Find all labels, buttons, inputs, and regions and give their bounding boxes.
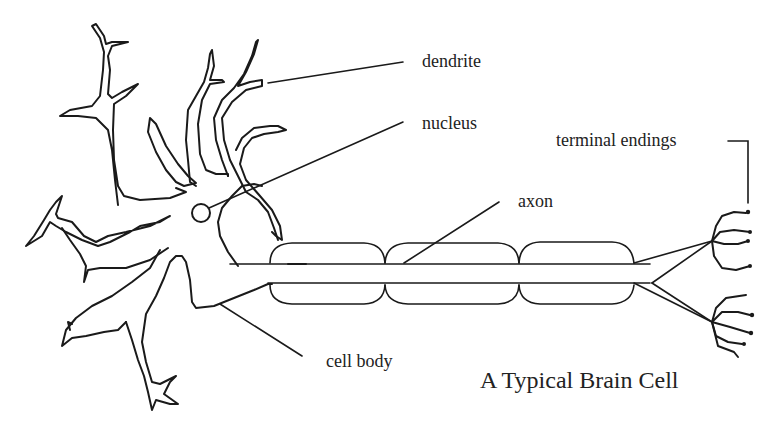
terminal-endings-leader [728,141,748,203]
cell-body-and-dendrites [26,24,286,410]
nucleus-label: nucleus [422,114,477,132]
axon-label: axon [518,192,553,210]
cell-body-label: cell body [326,352,392,370]
nucleus-leader [209,122,403,208]
diagram-title: A Typical Brain Cell [480,368,679,392]
terminal-endings-label: terminal endings [556,131,676,149]
nucleus-shape [192,204,210,222]
axon-with-myelin [230,242,650,304]
dendrite-leader [268,62,403,83]
cell-body-leader [220,304,302,356]
dendrite-label: dendrite [422,52,481,70]
neuron-diagram: dendrite nucleus axon terminal endings c… [0,0,776,430]
leader-lines [209,62,748,356]
axon-leader [404,202,499,263]
axon-terminals [634,210,754,357]
